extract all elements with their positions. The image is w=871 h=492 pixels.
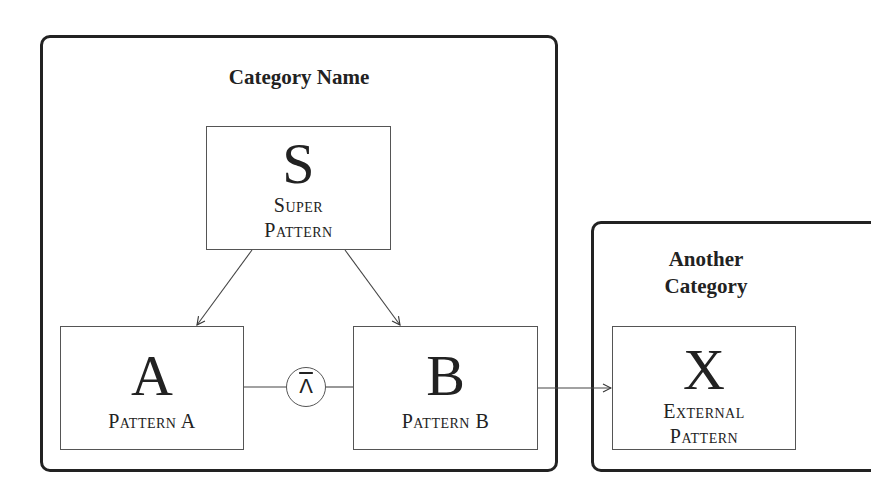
pattern-name-line1: Super [207,193,390,218]
category-title: Category Name [40,64,558,91]
pattern-letter: B [354,347,537,405]
pattern-box-external-pattern: X External Pattern [612,326,796,450]
pattern-name-line2: Pattern [613,424,795,449]
pattern-name-line1: External [613,399,795,424]
pattern-box-pattern-a: A Pattern A [60,326,244,450]
category-title-line2: Category [665,274,748,298]
nand-operator-node: Λ [286,367,326,407]
pattern-name: Pattern B [354,409,537,434]
pattern-box-pattern-b: B Pattern B [353,326,538,450]
pattern-box-super-pattern: S Super Pattern [206,126,391,250]
category-title: Another Category [594,246,818,300]
pattern-letter: S [207,135,390,193]
pattern-letter: X [613,341,795,399]
pattern-letter: A [61,347,243,405]
nand-operator-icon: Λ [287,368,325,404]
pattern-name-line2: Pattern [207,218,390,243]
category-title-line1: Another [669,247,744,271]
pattern-name: Pattern A [61,409,243,434]
